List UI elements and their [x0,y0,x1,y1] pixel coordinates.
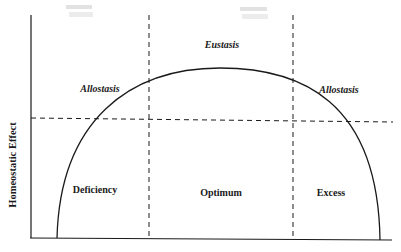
label-eustasis: Eustasis [204,39,240,50]
label-allostasis-right: Allostasis [318,84,359,95]
region-excess: Excess [317,187,345,198]
region-deficiency: Deficiency [73,184,117,195]
threshold-line [31,118,393,122]
faded-watermark-left [66,5,93,17]
homeostasis-diagram: Allostasis Eustasis Allostasis Deficienc… [0,0,401,252]
faded-watermark-right [240,7,268,19]
label-allostasis-left: Allostasis [79,83,120,94]
y-axis-label: Homeostatic Effect [7,122,18,208]
region-optimum: Optimum [200,187,242,198]
x-axis [30,238,392,240]
